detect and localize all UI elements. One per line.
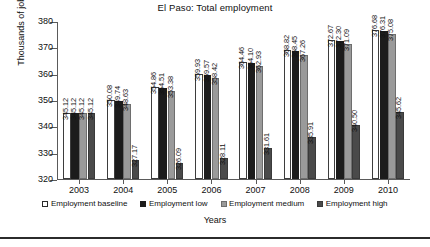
bar-value-label: 362.93 bbox=[255, 51, 263, 73]
y-tick-label: 320 bbox=[38, 174, 53, 184]
legend-label: Employment high bbox=[326, 199, 388, 208]
bar bbox=[79, 113, 87, 179]
y-tick-label: 350 bbox=[38, 95, 53, 105]
bar bbox=[248, 63, 256, 179]
bar-value-label: 326.09 bbox=[175, 148, 183, 170]
chart-title: El Paso: Total employment bbox=[0, 2, 430, 13]
plot-area: 320330340350360370380 345.12345.12345.12… bbox=[57, 22, 410, 180]
bar-value-label: 328.11 bbox=[219, 143, 227, 164]
bar bbox=[195, 74, 203, 179]
chart-legend: Employment baselineEmployment lowEmploym… bbox=[0, 199, 430, 208]
bar bbox=[115, 101, 123, 179]
bar-value-label: 345.12 bbox=[87, 98, 95, 120]
y-axis-title: Thousands of jobs bbox=[16, 0, 26, 84]
x-tick-label-2003: 2003 bbox=[59, 185, 99, 195]
bar-value-label: 331.61 bbox=[263, 133, 271, 155]
x-tick-mark bbox=[388, 180, 389, 184]
bar-value-label: 345.62 bbox=[395, 97, 403, 119]
legend-label: Employment medium bbox=[229, 199, 304, 208]
legend-swatch-icon bbox=[221, 201, 227, 207]
bar-value-label: 348.63 bbox=[122, 89, 130, 111]
bar bbox=[328, 40, 336, 179]
bar bbox=[239, 62, 247, 179]
bar-value-label: 358.42 bbox=[211, 63, 219, 85]
bar bbox=[380, 31, 388, 179]
legend-swatch-icon bbox=[140, 201, 146, 207]
x-tick-label-2007: 2007 bbox=[236, 185, 276, 195]
bar bbox=[336, 41, 344, 179]
bar bbox=[88, 113, 96, 179]
bar bbox=[300, 55, 308, 179]
x-tick-mark bbox=[123, 180, 124, 184]
legend-item[interactable]: Employment baseline bbox=[42, 199, 127, 208]
x-tick-mark bbox=[211, 180, 212, 184]
x-tick-mark bbox=[79, 180, 80, 184]
bar bbox=[256, 66, 264, 179]
x-tick-mark bbox=[167, 180, 168, 184]
bar bbox=[292, 51, 300, 179]
legend-item[interactable]: Employment medium bbox=[221, 199, 305, 208]
bar bbox=[63, 113, 71, 179]
bar bbox=[71, 113, 79, 179]
bar bbox=[204, 75, 212, 179]
bar bbox=[123, 104, 131, 179]
bar bbox=[151, 87, 159, 179]
chart-container: El Paso: Total employment 32033034035036… bbox=[0, 0, 430, 247]
bar bbox=[352, 125, 360, 179]
bar bbox=[284, 50, 292, 179]
bar bbox=[159, 88, 167, 179]
legend-item[interactable]: Employment high bbox=[317, 199, 387, 208]
bar-value-label: 367.26 bbox=[299, 40, 307, 62]
x-tick-mark bbox=[300, 180, 301, 184]
y-axis-line bbox=[57, 22, 58, 180]
legend-swatch-icon bbox=[42, 201, 48, 207]
bar-value-label: 327.17 bbox=[131, 145, 139, 167]
bar-value-label: 340.50 bbox=[351, 110, 359, 132]
bar bbox=[107, 100, 115, 179]
x-tick-label-2006: 2006 bbox=[191, 185, 231, 195]
bar-value-label: 371.09 bbox=[343, 29, 351, 51]
x-tick-label-2009: 2009 bbox=[324, 185, 364, 195]
bottom-divider bbox=[0, 237, 430, 239]
x-tick-mark bbox=[256, 180, 257, 184]
legend-label: Employment baseline bbox=[51, 199, 127, 208]
y-tick-label: 370 bbox=[38, 42, 53, 52]
legend-item[interactable]: Employment low bbox=[140, 199, 207, 208]
bar bbox=[372, 30, 380, 179]
bar-value-label: 335.91 bbox=[307, 122, 315, 144]
bar-value-label: 375.08 bbox=[387, 19, 395, 41]
x-tick-label-2004: 2004 bbox=[103, 185, 143, 195]
y-tick-label: 380 bbox=[38, 16, 53, 26]
legend-label: Employment low bbox=[149, 199, 208, 208]
y-tick-label: 360 bbox=[38, 69, 53, 79]
bar bbox=[396, 112, 404, 179]
x-tick-label-2008: 2008 bbox=[280, 185, 320, 195]
x-tick-mark bbox=[344, 180, 345, 184]
legend-swatch-icon bbox=[317, 201, 323, 207]
x-axis-title: Years bbox=[0, 215, 430, 225]
x-axis-line bbox=[57, 179, 410, 180]
x-tick-label-2010: 2010 bbox=[368, 185, 408, 195]
x-tick-label-2005: 2005 bbox=[147, 185, 187, 195]
bar-value-label: 353.38 bbox=[167, 76, 175, 98]
y-tick-label: 340 bbox=[38, 121, 53, 131]
y-tick-label: 330 bbox=[38, 148, 53, 158]
